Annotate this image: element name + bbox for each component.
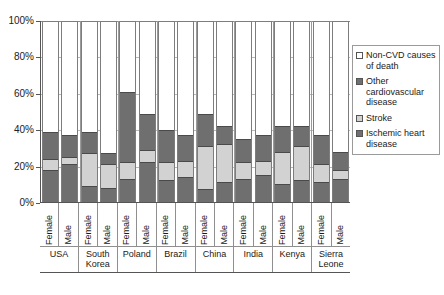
bar-segment: [256, 161, 271, 175]
country-label: Sierra Leone: [312, 247, 350, 272]
stacked-bar[interactable]: [255, 21, 272, 202]
country-group: FemaleMaleChina: [195, 203, 234, 272]
legend-item[interactable]: Non-CVD causes of death: [356, 50, 436, 71]
bar-segment: [217, 182, 232, 202]
bar-segment: [140, 22, 155, 114]
sex-label-row: FemaleMale: [234, 203, 272, 247]
stacked-bar-chart: 0%20%40%60%80%100% FemaleMaleUSAFemaleMa…: [0, 0, 444, 295]
dark-gray-swatch: [356, 130, 363, 137]
legend-label: Ischemic heart disease: [366, 128, 436, 149]
bar-segment: [217, 144, 232, 182]
y-axis-tick-label: 0%: [20, 198, 34, 208]
y-axis-tick-label: 100%: [8, 16, 34, 26]
country-group: FemaleMaleUSA: [40, 203, 78, 272]
bar-segment: [275, 152, 290, 184]
bar-segment: [198, 189, 213, 202]
sex-label: Female: [234, 203, 252, 246]
x-axis-category-labels: FemaleMaleUSAFemaleMaleSouth KoreaFemale…: [40, 203, 350, 273]
bar-segment: [236, 139, 251, 162]
y-axis-tick-label: 60%: [14, 89, 34, 99]
sex-label: Female: [157, 203, 175, 246]
bar-segment: [159, 130, 174, 162]
bar-group: [118, 21, 157, 202]
bar-segment: [62, 135, 77, 157]
bar-segment: [198, 22, 213, 114]
stacked-bar[interactable]: [61, 21, 78, 202]
bar-segment: [236, 22, 251, 139]
bar-segment: [140, 162, 155, 202]
bar-segment: [43, 159, 58, 170]
bar-group: [196, 21, 235, 202]
stacked-bar[interactable]: [81, 21, 98, 202]
bar-segment: [82, 132, 97, 154]
sex-label: Male: [331, 203, 350, 246]
bar-segment: [333, 22, 348, 152]
legend-item[interactable]: Other cardiovascular disease: [356, 76, 436, 108]
stacked-bar[interactable]: [197, 21, 214, 202]
stacked-bar[interactable]: [42, 21, 59, 202]
bar-group: [157, 21, 196, 202]
plot-area: [40, 21, 350, 203]
sex-label-row: FemaleMale: [157, 203, 195, 247]
bar-segment: [198, 114, 213, 146]
light-gray-swatch: [356, 115, 363, 122]
bar-segment: [101, 188, 116, 202]
stacked-bar[interactable]: [158, 21, 175, 202]
bar-segment: [62, 164, 77, 202]
country-group: FemaleMaleSouth Korea: [78, 203, 117, 272]
sex-label: Female: [273, 203, 291, 246]
bar-segment: [82, 22, 97, 132]
bar-segment: [333, 152, 348, 170]
stacked-bar[interactable]: [177, 21, 194, 202]
legend-label: Stroke: [366, 113, 392, 124]
bar-segment: [159, 180, 174, 202]
chart-legend: Non-CVD causes of deathOther cardiovascu…: [352, 45, 440, 155]
bar-segment: [236, 162, 251, 178]
sex-label: Female: [196, 203, 214, 246]
country-group: FemaleMaleIndia: [233, 203, 272, 272]
stacked-bar[interactable]: [100, 21, 117, 202]
country-label: India: [234, 247, 272, 272]
sex-label: Male: [292, 203, 311, 246]
stacked-bar[interactable]: [274, 21, 291, 202]
stacked-bar[interactable]: [119, 21, 136, 202]
bar-segment: [275, 22, 290, 126]
bar-segment: [178, 135, 193, 160]
bar-segment: [101, 22, 116, 153]
y-axis-tick-label: 80%: [14, 52, 34, 62]
bar-segment: [120, 179, 135, 202]
country-group: FemaleMalePoland: [117, 203, 156, 272]
bar-segment: [294, 180, 309, 202]
bar-segment: [333, 170, 348, 179]
stacked-bar[interactable]: [332, 21, 349, 202]
bar-segment: [140, 114, 155, 150]
stacked-bar[interactable]: [216, 21, 233, 202]
sex-label: Male: [97, 203, 116, 246]
sex-label-row: FemaleMale: [40, 203, 78, 247]
y-axis: 0%20%40%60%80%100%: [0, 0, 40, 295]
country-label: Kenya: [273, 247, 311, 272]
bar-segment: [256, 175, 271, 202]
stacked-bar[interactable]: [139, 21, 156, 202]
stacked-bar[interactable]: [293, 21, 310, 202]
bar-segment: [294, 126, 309, 146]
country-label: South Korea: [79, 247, 117, 272]
bar-segment: [120, 22, 135, 92]
bar-segment: [62, 157, 77, 164]
bar-segment: [120, 92, 135, 162]
bar-group: [80, 21, 119, 202]
legend-item[interactable]: Stroke: [356, 113, 436, 124]
stacked-bar[interactable]: [235, 21, 252, 202]
bar-groups: [41, 21, 350, 202]
legend-label: Other cardiovascular disease: [366, 76, 436, 108]
bar-segment: [178, 161, 193, 177]
bar-segment: [314, 22, 329, 135]
bar-segment: [82, 186, 97, 202]
stacked-bar[interactable]: [313, 21, 330, 202]
legend-item[interactable]: Ischemic heart disease: [356, 128, 436, 149]
country-group: FemaleMaleBrazil: [156, 203, 195, 272]
bar-group: [41, 21, 80, 202]
sex-label-row: FemaleMale: [273, 203, 311, 247]
bar-segment: [62, 22, 77, 135]
bar-group: [311, 21, 350, 202]
